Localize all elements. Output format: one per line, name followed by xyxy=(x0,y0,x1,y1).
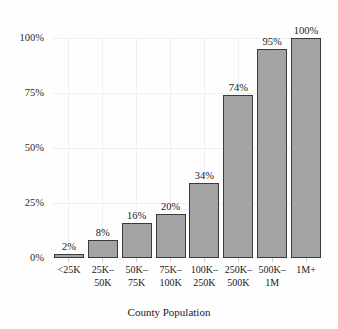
x-axis-tick-label: 1M+ xyxy=(289,264,323,289)
x-axis-tick-label-line1: 100K– xyxy=(191,264,218,275)
x-axis-title: County Population xyxy=(0,306,338,318)
x-axis-tick-mark xyxy=(170,258,171,262)
bar-chart-figure: 100% 75% 50% 25% 0% 2% 8% 16% xyxy=(0,0,338,329)
x-axis-tick-label-line1: 250K– xyxy=(225,264,252,275)
x-axis-tick-label: 50K– 75K xyxy=(120,264,154,289)
bar-rect[interactable] xyxy=(291,38,321,258)
bar-value-label: 100% xyxy=(286,25,326,36)
x-axis-tick-mark xyxy=(68,258,69,262)
x-axis-tick-label-line2: 75K xyxy=(120,277,154,290)
x-axis-tick-label-line1: 75K– xyxy=(159,264,181,275)
bar-rect[interactable] xyxy=(88,240,118,258)
bar-item[interactable]: 2% xyxy=(52,38,86,258)
x-axis-tick-label: 500K– 1M xyxy=(255,264,289,289)
bar-rect[interactable] xyxy=(257,49,287,258)
y-axis-tick-label: 100% xyxy=(4,33,44,44)
bar-item[interactable]: 95% xyxy=(255,38,289,258)
bar-item[interactable]: 74% xyxy=(221,38,255,258)
bar-rect[interactable] xyxy=(189,183,219,258)
x-axis-tick-mark xyxy=(306,258,307,262)
x-axis-tick-label-line2: 500K xyxy=(221,277,255,290)
x-axis-tick-label-line1: 25K– xyxy=(92,264,114,275)
bar-value-label: 74% xyxy=(218,82,258,93)
bar-series: 2% 8% 16% 20% 34% 74% xyxy=(52,38,323,258)
x-axis-tick-label: 25K– 50K xyxy=(86,264,120,289)
bar-item[interactable]: 8% xyxy=(86,38,120,258)
bar-value-label: 8% xyxy=(83,227,123,238)
y-axis-tick-label: 0% xyxy=(4,253,44,264)
x-axis-tick-mark xyxy=(238,258,239,262)
x-axis-tick-labels: <25K 25K– 50K 50K– 75K 75K– 100K 100K– 2… xyxy=(52,264,323,289)
plot-area: 2% 8% 16% 20% 34% 74% xyxy=(52,38,323,258)
x-axis-tick-mark xyxy=(204,258,205,262)
x-axis-tick-label: 75K– 100K xyxy=(154,264,188,289)
x-axis-tick-label-line2: 250K xyxy=(188,277,222,290)
x-axis-tick-mark xyxy=(102,258,103,262)
bar-rect[interactable] xyxy=(223,95,253,258)
bar-item[interactable]: 20% xyxy=(154,38,188,258)
bar-item[interactable]: 34% xyxy=(188,38,222,258)
bar-value-label: 95% xyxy=(252,36,292,47)
x-axis-tick-mark xyxy=(136,258,137,262)
y-axis-tick-label: 50% xyxy=(4,143,44,154)
bar-rect[interactable] xyxy=(122,223,152,258)
bar-value-label: 2% xyxy=(49,241,89,252)
x-axis-tick-label-line1: 1M+ xyxy=(296,264,316,275)
x-axis-tick-label-line2: 50K xyxy=(86,277,120,290)
y-axis-tick-label: 25% xyxy=(4,198,44,209)
bar-value-label: 34% xyxy=(184,170,224,181)
x-axis-tick-label-line2: 1M xyxy=(255,277,289,290)
x-axis-tick-label-line1: 50K– xyxy=(126,264,148,275)
bar-value-label: 20% xyxy=(151,201,191,212)
bar-item[interactable]: 16% xyxy=(120,38,154,258)
x-axis-tick-label: 250K– 500K xyxy=(221,264,255,289)
x-axis-tick-label-line1: <25K xyxy=(58,264,81,275)
x-axis-tick-label-line2: 100K xyxy=(154,277,188,290)
x-axis-tick-label: 100K– 250K xyxy=(188,264,222,289)
x-axis-tick-label-line1: 500K– xyxy=(259,264,286,275)
y-axis-tick-label: 75% xyxy=(4,88,44,99)
x-axis-tick-mark xyxy=(272,258,273,262)
bar-rect[interactable] xyxy=(156,214,186,258)
x-axis-tick-label: <25K xyxy=(52,264,86,289)
bar-item[interactable]: 100% xyxy=(289,38,323,258)
